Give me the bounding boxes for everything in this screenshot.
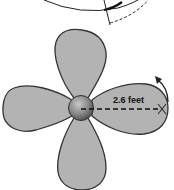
radial-line [104,0,110,25]
hub [69,96,94,121]
blade-bottom [58,118,106,190]
blade-top [55,29,106,98]
radius-label: 2.6 feet [113,95,144,105]
partial-circle-arc [44,0,144,11]
blade-left [3,86,72,131]
fan-diagram: 2.6 feet [0,0,174,190]
top-fragment [44,0,150,25]
